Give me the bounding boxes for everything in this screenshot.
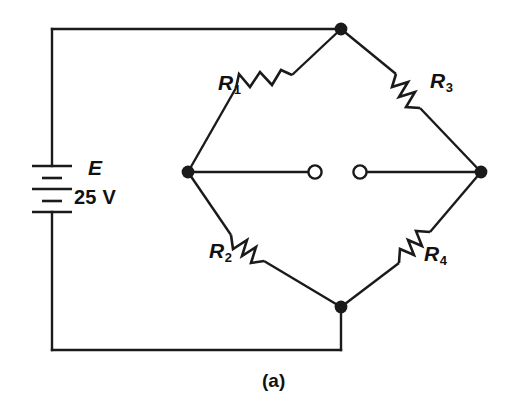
lead-r3-bottom	[420, 108, 481, 172]
resistor-r3-label: R3	[430, 70, 452, 91]
node-left	[182, 166, 195, 179]
node-right	[475, 166, 488, 179]
lead-r3-top	[341, 29, 396, 74]
lead-r1-bottom	[188, 88, 236, 172]
lead-r4-top	[430, 172, 481, 232]
lead-r1-top	[292, 29, 341, 75]
resistor-r4-letter: R	[424, 242, 439, 265]
node-bottom	[335, 301, 348, 314]
resistor-r1-subscript: 1	[234, 82, 241, 97]
resistor-r2-subscript: 2	[225, 250, 232, 265]
meter-terminal-left[interactable]	[308, 165, 321, 178]
node-top	[335, 23, 348, 36]
resistor-r3-letter: R	[430, 69, 445, 92]
figure-canvas: E 25 V R1 R2 R3 R4 (a)	[0, 0, 514, 412]
resistor-r1-zigzag	[236, 70, 292, 88]
lead-r4-bottom	[341, 263, 399, 307]
meter-terminal-right[interactable]	[353, 165, 366, 178]
resistor-r2-zigzag	[231, 235, 264, 263]
figure-caption: (a)	[262, 371, 285, 390]
resistor-r1-letter: R	[218, 71, 233, 94]
lead-r2-top	[188, 172, 231, 235]
resistor-r2-label: R2	[209, 240, 231, 261]
resistor-r4-label: R4	[424, 243, 446, 264]
lead-r2-bottom	[264, 261, 341, 307]
source-value-label: 25 V	[74, 187, 116, 207]
resistor-r2-letter: R	[209, 239, 224, 262]
resistor-r3-zigzag	[392, 74, 420, 108]
source-symbol-label: E	[88, 157, 102, 178]
resistor-r1-label: R1	[218, 72, 240, 93]
resistor-r4-subscript: 4	[440, 253, 447, 268]
resistor-r3-subscript: 3	[446, 80, 453, 95]
